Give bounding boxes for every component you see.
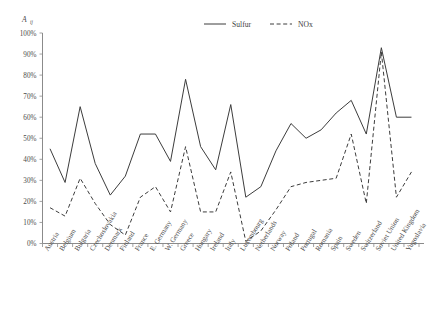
x-axis-labels: AustriaBelgiumBulgariaCzechoslovakiaDenm… bbox=[43, 207, 428, 252]
line-chart: A ij Sulfur NOx 0%10%20%30%40%50%60%70%8… bbox=[0, 0, 433, 309]
y-tick-label: 60% bbox=[23, 114, 36, 122]
y-axis-title-text: A bbox=[21, 15, 27, 24]
legend-label-nox: NOx bbox=[298, 20, 313, 29]
y-tick-label: 100% bbox=[20, 30, 37, 38]
y-tick-label: 90% bbox=[23, 51, 36, 59]
legend-label-sulfur: Sulfur bbox=[232, 20, 251, 29]
y-tick-label: 70% bbox=[23, 93, 36, 101]
series-line-sulfur bbox=[50, 48, 411, 197]
y-tick-label: 10% bbox=[23, 219, 36, 227]
y-axis-title: A ij bbox=[21, 15, 33, 25]
y-tick-label: 40% bbox=[23, 156, 36, 164]
chart-legend: Sulfur NOx bbox=[204, 20, 313, 29]
y-axis-ticks: 0%10%20%30%40%50%60%70%80%90%100% bbox=[20, 30, 43, 249]
y-tick-label: 0% bbox=[27, 240, 37, 248]
x-tick-label: Italy bbox=[224, 237, 238, 253]
y-tick-label: 30% bbox=[23, 177, 36, 185]
y-tick-label: 20% bbox=[23, 198, 36, 206]
y-tick-label: 50% bbox=[23, 135, 36, 143]
y-tick-label: 80% bbox=[23, 72, 36, 80]
chart-figure: A ij Sulfur NOx 0%10%20%30%40%50%60%70%8… bbox=[0, 0, 433, 309]
y-axis-title-subscript: ij bbox=[30, 19, 33, 25]
series-line-nox bbox=[50, 52, 411, 241]
